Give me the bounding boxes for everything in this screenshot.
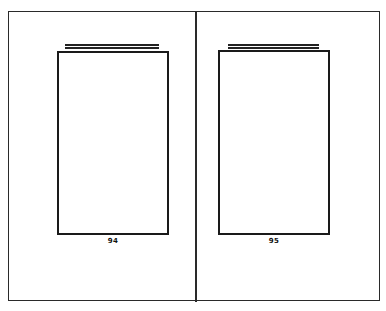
right-page-number: 95 <box>259 237 289 245</box>
right-text-block <box>218 50 330 235</box>
right-header-rule-bottom <box>228 47 319 49</box>
left-page-number: 94 <box>98 237 128 245</box>
left-text-block <box>57 51 169 235</box>
gutter-divider <box>195 11 197 302</box>
left-header-rule-bottom <box>65 47 159 49</box>
left-header-rule-top <box>65 44 159 46</box>
right-header-rule-top <box>228 44 319 46</box>
